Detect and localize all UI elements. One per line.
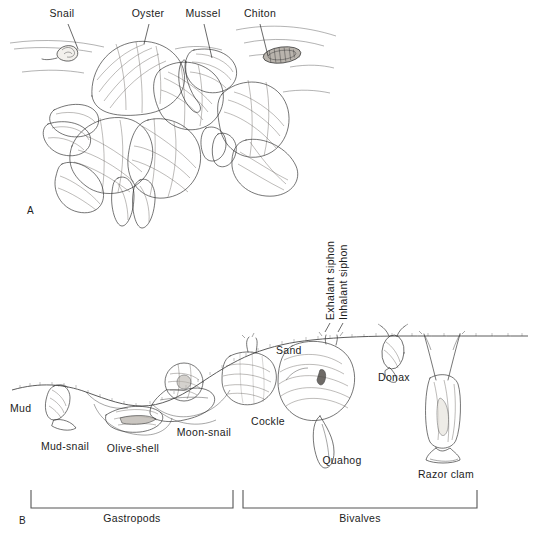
- label-olive-shell: Olive-shell: [107, 442, 159, 454]
- label-mud-snail: Mud-snail: [41, 440, 89, 452]
- panel-label-a: A: [27, 205, 34, 216]
- label-mud: Mud: [10, 402, 31, 414]
- label-inhalant-siphon: Inhalant siphon: [337, 244, 349, 320]
- label-moon-snail: Moon-snail: [177, 426, 231, 438]
- label-razor-clam: Razor clam: [418, 468, 474, 480]
- figure-molluscan-habitats: Snail Oyster Mussel Chiton A: [0, 0, 540, 535]
- label-oyster: Oyster: [132, 7, 165, 19]
- label-cockle: Cockle: [251, 415, 285, 427]
- label-quahog: Quahog: [322, 454, 361, 466]
- label-mussel: Mussel: [185, 7, 220, 19]
- label-chiton: Chiton: [244, 7, 276, 19]
- label-exhalant-siphon: Exhalant siphon: [324, 241, 336, 320]
- bracket-label-bivalves: Bivalves: [339, 512, 381, 524]
- label-donax: Donax: [378, 371, 410, 383]
- bracket-label-gastropods: Gastropods: [103, 512, 160, 524]
- label-sand: Sand: [276, 344, 302, 356]
- illustration-canvas: Snail Oyster Mussel Chiton A: [0, 0, 540, 535]
- label-snail: Snail: [50, 7, 75, 19]
- figure-background: [0, 0, 540, 535]
- panel-label-b: B: [19, 515, 26, 526]
